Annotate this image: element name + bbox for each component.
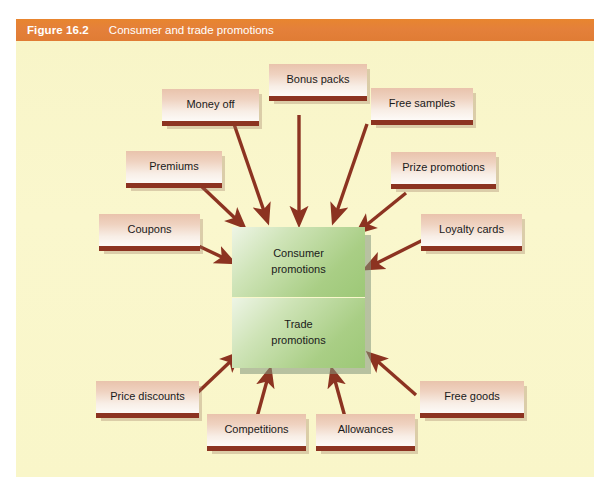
center-consumer-line2: promotions xyxy=(271,262,325,278)
node-free-samples: Free samples xyxy=(371,88,473,125)
diagram-canvas: Consumer promotions Trade promotions Mon… xyxy=(16,41,594,477)
arrow-free-samples xyxy=(336,124,367,214)
arrow-prize-promotions xyxy=(364,193,406,227)
node-competitions: Competitions xyxy=(207,414,306,451)
arrow-free-goods xyxy=(375,359,416,395)
node-allowances: Allowances xyxy=(316,414,415,451)
figure-title-label: Consumer and trade promotions xyxy=(109,24,274,36)
node-money-off: Money off xyxy=(162,89,259,126)
node-coupons: Coupons xyxy=(99,214,200,251)
figure-number-label: Figure 16.2 xyxy=(27,24,89,36)
center-node-trade-promotions: Trade promotions xyxy=(232,298,365,368)
figure-container: Figure 16.2 Consumer and trade promotion… xyxy=(0,0,612,495)
center-trade-line1: Trade xyxy=(284,317,312,333)
figure-header-bar: Figure 16.2 Consumer and trade promotion… xyxy=(16,19,594,41)
center-stack: Consumer promotions Trade promotions xyxy=(232,227,365,368)
node-price-discounts: Price discounts xyxy=(96,381,199,418)
node-loyalty-cards: Loyalty cards xyxy=(421,214,522,251)
arrow-premiums xyxy=(199,184,238,221)
center-node-consumer-promotions: Consumer promotions xyxy=(232,227,365,297)
center-trade-line2: promotions xyxy=(271,333,325,349)
arrow-price-discounts xyxy=(194,359,233,396)
node-prize-promotions: Prize promotions xyxy=(391,152,496,189)
arrow-money-off xyxy=(234,124,265,214)
node-bonus-packs: Bonus packs xyxy=(269,64,367,101)
center-consumer-line1: Consumer xyxy=(273,246,324,262)
node-premiums: Premiums xyxy=(126,151,222,188)
node-free-goods: Free goods xyxy=(420,381,524,418)
